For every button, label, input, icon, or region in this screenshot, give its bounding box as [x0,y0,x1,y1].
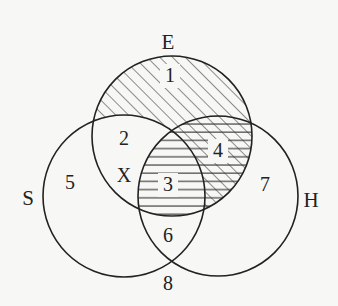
region-label-6: 6 [163,224,173,246]
venn-svg: E S H 1 2 X 3 4 5 6 7 8 [0,0,338,306]
region-label-1: 1 [165,64,175,86]
set-label-H: H [303,188,318,212]
region-label-4: 4 [213,139,223,161]
region-label-X: X [117,164,132,186]
region-label-2: 2 [119,127,129,149]
region-label-8: 8 [163,272,173,294]
set-label-S: S [22,186,34,210]
venn-diagram: E S H 1 2 X 3 4 5 6 7 8 [0,0,338,306]
region-label-7: 7 [260,173,270,195]
region-label-5: 5 [65,171,75,193]
set-label-E: E [162,30,175,54]
region-label-3: 3 [163,173,173,195]
